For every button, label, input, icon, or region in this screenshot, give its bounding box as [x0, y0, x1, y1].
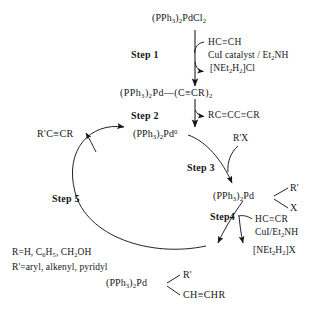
reagent-step4-terminal-alkyne: HC≡CR: [255, 214, 288, 224]
reaction-scheme-diagram: (PPh3)2PdCl2 Step 1 HC≡CH CuI catalyst /…: [0, 0, 331, 311]
species-alkynyl-complex-vinyl: CH≡CHR: [183, 289, 226, 300]
species-oxidative-adduct-rprime: R': [290, 182, 299, 193]
reagent-step3-organohalide: R'X: [233, 133, 248, 143]
species-alkynyl-complex-core: (PPh3)2Pd: [106, 277, 147, 289]
byproduct-step4-ammonium-halide: [NEt2H2]X: [253, 245, 296, 256]
legend-r-definition: R=H, C6H5, CH2OH: [12, 246, 91, 260]
species-palladium-zero: (PPh3)2Pd0: [133, 128, 178, 141]
species-coupling-product: R'C≡CR: [37, 128, 74, 139]
byproduct-step2-diyne: RC≡CC≡CR: [208, 110, 260, 120]
step-2-label: Step 2: [131, 110, 159, 121]
condition-step4: CuI/Et2NH: [255, 227, 298, 238]
species-oxidative-adduct-core: (PPh3)2Pd: [213, 190, 254, 202]
step-5-label: Step 5: [52, 193, 80, 204]
byproduct-step1-ammonium-chloride: [NEt2H2]Cl: [210, 63, 255, 74]
species-oxidative-adduct-halide: X: [290, 202, 297, 213]
legend-rprime-definition: R'=aryl, alkenyl, pyridyl: [12, 261, 108, 275]
condition-step1: CuI catalyst / Et2NH: [208, 50, 288, 61]
species-bis-alkynyl-palladium: (PPh3)2Pd—(C≡CR)2: [120, 87, 213, 99]
step-1-label: Step 1: [131, 49, 159, 60]
species-alkynyl-complex-rprime: R': [183, 269, 192, 280]
step-4-label: Step4: [210, 211, 235, 222]
reagent-step1-acetylene: HC≡CH: [208, 37, 242, 47]
species-precatalyst: (PPh3)2PdCl2: [152, 12, 206, 24]
step-3-label: Step 3: [187, 162, 215, 173]
